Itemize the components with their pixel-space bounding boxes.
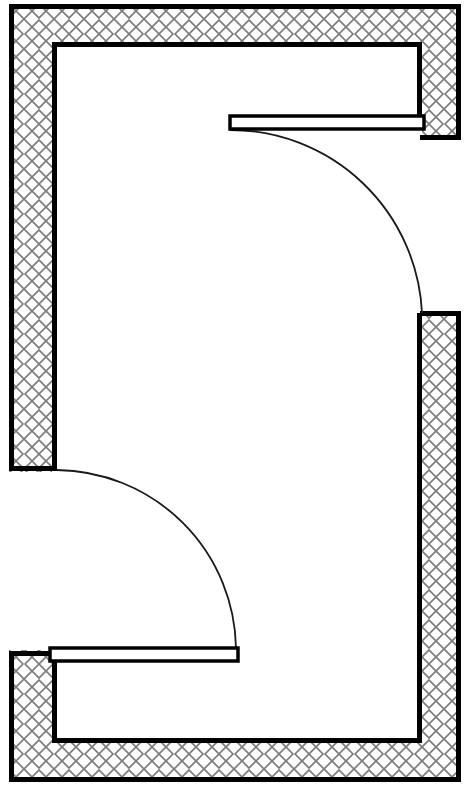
upper-door-leaf[interactable]	[230, 116, 424, 129]
lower-door-leaf[interactable]	[50, 648, 238, 661]
floor-plan-drawing	[0, 0, 469, 798]
floor-plan-canvas: Room Plan with Two Doors	[0, 0, 469, 798]
